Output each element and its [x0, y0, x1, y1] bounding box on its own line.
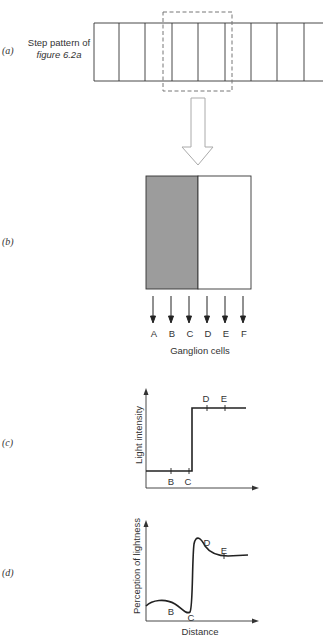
d-point-b: B: [166, 606, 176, 618]
d-point-c: C: [186, 612, 196, 624]
step-pattern: [94, 23, 323, 81]
light-intensity-ylabel: Light intensity: [133, 395, 145, 475]
cell-label-e: E: [221, 328, 231, 340]
distance-xlabel: Distance: [170, 626, 230, 638]
light-field: [198, 176, 251, 289]
cell-label-b: B: [167, 328, 177, 340]
dashed-selection-box: [163, 12, 232, 91]
cell-label-d: D: [203, 328, 213, 340]
cell-label-f: F: [239, 328, 249, 340]
perception-ylabel: Perception of lightness: [131, 506, 143, 626]
perception-chart: [144, 520, 260, 624]
ganglion-cell-labels: A B C D E F: [146, 328, 254, 340]
cell-label-a: A: [149, 328, 159, 340]
ganglion-arrows: [151, 296, 246, 323]
c-point-b: B: [166, 476, 176, 488]
c-point-c: C: [183, 476, 193, 488]
c-point-e: E: [219, 393, 229, 405]
down-arrow-icon: [182, 98, 213, 165]
figure-canvas: [0, 0, 323, 644]
d-point-d: D: [202, 537, 212, 549]
ganglion-cells-caption: Ganglion cells: [160, 345, 240, 357]
c-point-d: D: [201, 393, 211, 405]
d-point-e: E: [219, 545, 229, 557]
dark-field: [146, 176, 198, 289]
cell-label-c: C: [185, 328, 195, 340]
